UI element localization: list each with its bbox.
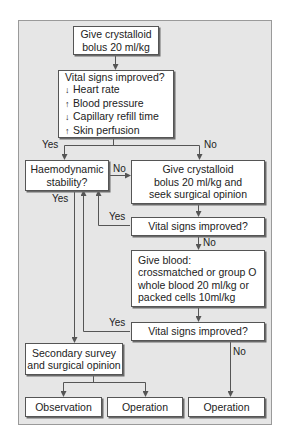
node-vital-signs-improved-3: Vital signs improved? [131, 322, 265, 341]
node-give-crystalloid-bolus: Give crystalloid bolus 20 ml/kg [73, 26, 159, 55]
edge-label-yes: Yes [52, 193, 68, 204]
node-operation-after-survey: Operation [107, 397, 183, 417]
node-text-line: Give crystalloid [80, 28, 151, 41]
node-title: Vital signs improved? [65, 71, 165, 84]
node-operation-no-improvement: Operation [188, 397, 265, 417]
node-text-line: bolus 20 ml/kg and [154, 176, 242, 189]
node-give-crystalloid-seek-surgical-opinion: Give crystalloid bolus 20 ml/kg and seek… [131, 160, 265, 204]
node-text-line: whole blood 20 ml/kg or [138, 279, 249, 292]
edge-label-yes: Yes [109, 211, 125, 222]
node-text-line: Operation [122, 401, 168, 414]
criterion-heart-rate: ↓Heart rate [65, 83, 120, 97]
edge-label-no: No [203, 237, 216, 248]
criterion-capillary-refill: ↓Capillary refill time [65, 110, 159, 124]
node-text-line: Haemodynamic [31, 163, 104, 176]
edge-label-yes: Yes [109, 317, 125, 328]
edge-label-no: No [204, 139, 217, 150]
node-give-blood: Give blood: crossmatched or group O whol… [131, 250, 265, 307]
node-text-line: seek surgical opinion [149, 188, 247, 201]
criterion-blood-pressure: ↑Blood pressure [65, 97, 144, 111]
criterion-label: Capillary refill time [73, 110, 159, 122]
criterion-skin-perfusion: ↑Skin perfusion [65, 124, 140, 138]
node-secondary-survey-surgical-opinion: Secondary survey and surgical opinion [25, 343, 123, 375]
node-text-line: and surgical opinion [27, 359, 120, 372]
node-text-line: Operation [203, 401, 249, 414]
node-observation: Observation [25, 397, 102, 417]
node-text-line: packed cells 10ml/kg [138, 291, 235, 304]
node-text-line: Vital signs improved? [148, 220, 248, 233]
node-vital-signs-improved-2: Vital signs improved? [131, 217, 265, 236]
edge-label-no: No [233, 346, 246, 357]
node-text-line: Vital signs improved? [148, 325, 248, 338]
edge-label-yes: Yes [42, 139, 58, 150]
arrow-up-icon: ↑ [65, 98, 73, 111]
criterion-label: Blood pressure [73, 97, 144, 109]
node-text-line: Observation [35, 401, 92, 414]
criterion-label: Heart rate [73, 83, 120, 95]
criterion-label: Skin perfusion [73, 124, 140, 136]
node-text-line: Secondary survey [32, 347, 116, 360]
arrow-up-icon: ↑ [65, 125, 73, 138]
node-text-line: bolus 20 ml/kg [82, 41, 150, 54]
node-text-line: stability? [47, 176, 88, 189]
node-text-line: Give crystalloid [162, 163, 233, 176]
arrow-down-icon: ↓ [65, 84, 73, 97]
node-text-line: crossmatched or group O [138, 266, 256, 279]
edge-label-no: No [113, 163, 126, 174]
arrow-down-icon: ↓ [65, 111, 73, 124]
node-vital-signs-improved-criteria: Vital signs improved? ↓Heart rate ↑Blood… [58, 70, 174, 138]
node-haemodynamic-stability: Haemodynamic stability? [25, 160, 109, 191]
node-text-line: Give blood: [138, 254, 191, 267]
